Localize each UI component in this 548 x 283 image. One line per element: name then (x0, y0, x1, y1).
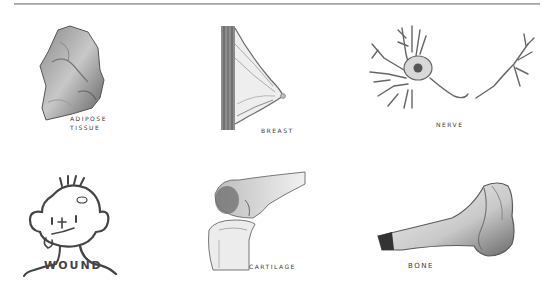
cartilage-drawing (205, 170, 315, 270)
bone-label: BONE (408, 262, 434, 271)
adipose-tissue-label: ADIPOSE TISSUE (70, 114, 107, 132)
top-rule (14, 3, 540, 5)
panel-cartilage: CARTILAGE (205, 170, 320, 280)
panel-adipose-tissue: ADIPOSE TISSUE (38, 22, 128, 132)
panel-wound: WOUND (16, 166, 136, 278)
panel-bone: BONE (372, 180, 542, 280)
adipose-tissue-drawing (38, 22, 118, 122)
panel-nerve: NERVE (368, 24, 544, 136)
nerve-label: NERVE (436, 120, 464, 129)
panel-breast: BREAST (215, 24, 315, 134)
bone-drawing (372, 180, 532, 260)
breast-label: BREAST (261, 126, 294, 135)
breast-drawing (215, 24, 295, 134)
wound-label: WOUND (44, 261, 103, 270)
cartilage-label: CARTILAGE (249, 262, 296, 271)
nerve-drawing (368, 24, 538, 114)
